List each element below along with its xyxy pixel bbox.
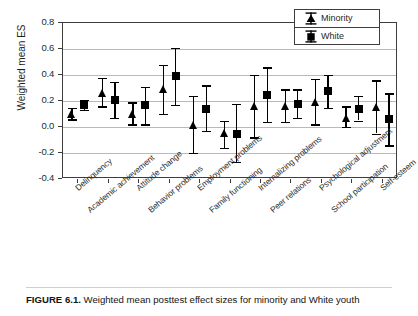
square-marker-icon	[141, 101, 149, 109]
y-tick-label: -0.4	[20, 172, 54, 183]
error-bar-cap-lower	[324, 108, 333, 109]
error-bar-cap-lower	[293, 118, 302, 119]
square-marker-icon	[111, 96, 119, 104]
error-bar-cap-upper	[110, 82, 119, 83]
square-marker-icon	[233, 130, 241, 138]
y-tick-mark	[58, 48, 62, 49]
x-tick-mark	[169, 179, 170, 183]
square-marker-icon	[303, 28, 319, 45]
y-tick-mark	[58, 100, 62, 101]
y-tick-label: 0.2	[20, 94, 54, 105]
error-bar-cap-lower	[263, 122, 272, 123]
error-bar-cap-upper	[354, 96, 363, 97]
error-bar-cap-lower	[385, 145, 394, 146]
x-tick-mark	[290, 179, 291, 183]
figure-caption-label: FIGURE 6.1.	[26, 294, 81, 305]
y-tick-mark	[58, 74, 62, 75]
square-marker-icon	[324, 87, 332, 95]
square-marker-icon	[80, 101, 88, 109]
y-tick-mark	[58, 22, 62, 23]
error-bar-cap-upper	[385, 93, 394, 94]
legend-label-white: White	[321, 31, 344, 41]
series-white	[63, 23, 396, 177]
y-tick-label: 0.4	[20, 68, 54, 79]
legend-entry-minority: Minority	[295, 10, 379, 27]
figure-container: Weighted mean ES 0.80.60.40.20.0-0.2-0.4…	[0, 0, 418, 316]
error-bar-cap-upper	[293, 89, 302, 90]
caption-rule	[26, 287, 392, 288]
legend-entry-white: White	[295, 28, 379, 45]
error-bar-cap-upper	[324, 75, 333, 76]
square-marker-icon	[202, 105, 210, 113]
error-bar-cap-upper	[202, 85, 211, 86]
y-tick-label: -0.2	[20, 146, 54, 157]
legend-label-minority: Minority	[321, 13, 353, 23]
error-bar-cap-lower	[354, 121, 363, 122]
y-tick-label: 0.6	[20, 42, 54, 53]
error-bar-cap-upper	[263, 67, 272, 68]
y-tick-label: 0.0	[20, 120, 54, 131]
error-bar-cap-lower	[110, 118, 119, 119]
x-tick-mark	[108, 179, 109, 183]
error-bar-cap-lower	[171, 105, 180, 106]
y-tick-mark	[58, 152, 62, 153]
error-bar-cap-lower	[202, 131, 211, 132]
error-bar-cap-upper	[141, 87, 150, 88]
chart-legend: Minority White	[294, 9, 380, 45]
error-bar-cap-lower	[80, 110, 89, 111]
square-marker-icon	[172, 72, 180, 80]
square-marker-icon	[263, 91, 271, 99]
error-bar-cap-lower	[141, 124, 150, 125]
error-bar-cap-upper	[171, 48, 180, 49]
square-marker-icon	[355, 105, 363, 113]
triangle-marker-icon	[303, 10, 319, 27]
y-tick-mark	[58, 126, 62, 127]
y-tick-label: 0.8	[20, 16, 54, 27]
y-tick-mark	[58, 178, 62, 179]
square-marker-icon	[294, 100, 302, 108]
square-marker-icon	[385, 115, 393, 123]
x-tick-mark	[351, 179, 352, 183]
error-bar-cap-upper	[232, 104, 241, 105]
figure-caption-text: Weighted mean posttest effect sizes for …	[84, 294, 360, 305]
x-tick-mark	[230, 179, 231, 183]
figure-caption: FIGURE 6.1. Weighted mean posttest effec…	[26, 294, 406, 305]
